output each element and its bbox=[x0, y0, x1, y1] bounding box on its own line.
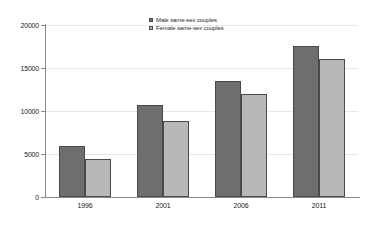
bar-1996-male[interactable] bbox=[59, 146, 85, 197]
y-tick-label: 10000 bbox=[21, 108, 39, 115]
legend-item-male[interactable]: Male same-sex couples bbox=[149, 16, 224, 24]
bar-1996-female[interactable] bbox=[85, 159, 111, 197]
y-axis-tick-labels: 05000100001500020000 bbox=[0, 0, 39, 225]
y-tick-label: 20000 bbox=[21, 22, 39, 29]
y-tick-label: 0 bbox=[35, 194, 39, 201]
bar-2001-male[interactable] bbox=[137, 105, 163, 197]
chart-legend: Male same-sex couples Female same-sex co… bbox=[149, 16, 224, 32]
bar-2006-female[interactable] bbox=[241, 94, 267, 197]
bar-2001-female[interactable] bbox=[163, 121, 189, 197]
legend-item-female[interactable]: Female same-sex couples bbox=[149, 24, 224, 32]
y-tick-label: 15000 bbox=[21, 65, 39, 72]
bar-group bbox=[137, 25, 189, 197]
female-swatch-icon bbox=[149, 26, 153, 30]
x-tick-label: 2006 bbox=[202, 202, 280, 209]
x-tick-label: 1996 bbox=[46, 202, 124, 209]
bar-group bbox=[293, 25, 345, 197]
plot-area bbox=[46, 25, 358, 197]
x-tick-label: 2001 bbox=[124, 202, 202, 209]
male-swatch-icon bbox=[149, 18, 153, 22]
x-axis-line bbox=[45, 197, 360, 198]
bar-group bbox=[215, 25, 267, 197]
x-tick-label: 2011 bbox=[280, 202, 358, 209]
bar-2011-female[interactable] bbox=[319, 59, 345, 197]
legend-label-female: Female same-sex couples bbox=[156, 24, 224, 32]
bar-2006-male[interactable] bbox=[215, 81, 241, 197]
bar-group bbox=[59, 25, 111, 197]
bar-chart-figure: 05000100001500020000 1996200120062011 Ma… bbox=[0, 0, 375, 225]
y-tick-label: 5000 bbox=[24, 151, 39, 158]
legend-label-male: Male same-sex couples bbox=[156, 16, 217, 24]
bar-2011-male[interactable] bbox=[293, 46, 319, 197]
